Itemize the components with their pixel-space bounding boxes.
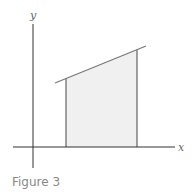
figure-caption: Figure 3 [12,175,60,189]
y-axis-label: y [29,9,37,22]
x-axis-label: x [178,141,185,154]
figure-diagram: x y [0,0,192,192]
